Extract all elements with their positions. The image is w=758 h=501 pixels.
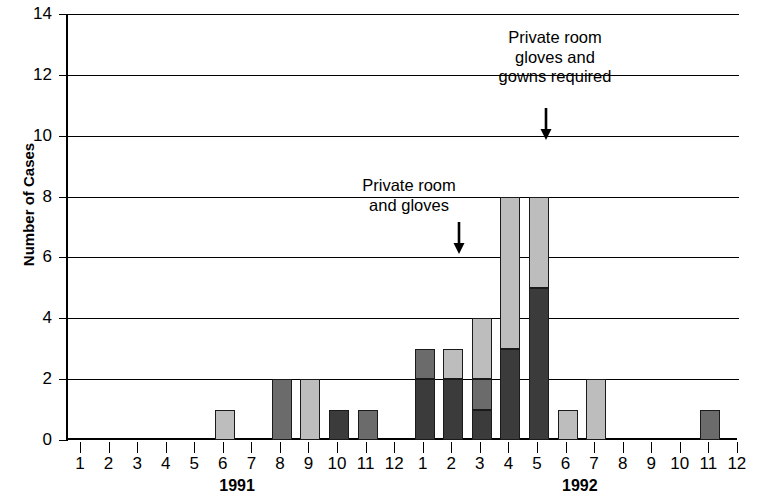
x-axis-tick (137, 442, 138, 453)
x-axis-tick-label: 10 (665, 455, 695, 472)
bar-chart: Number of Cases 02468101214 123456789101… (0, 0, 758, 501)
x-axis-tick (223, 442, 224, 453)
annotation-line: Private room (299, 176, 519, 196)
x-axis-tick-label: 4 (493, 455, 523, 472)
x-axis-tick (166, 442, 167, 453)
x-axis-tick (423, 442, 424, 453)
x-axis-tick (651, 442, 652, 453)
x-axis-tick-label: 6 (208, 455, 238, 472)
x-axis-tick-label: 8 (265, 455, 295, 472)
x-axis-tick (280, 442, 281, 453)
annotation-line: gloves and (445, 48, 665, 68)
x-axis-tick-label: 7 (579, 455, 609, 472)
x-axis-tick-label: 3 (122, 455, 152, 472)
x-axis-tick (80, 442, 81, 453)
annotation-line: Private room (445, 28, 665, 48)
annotation-line: gowns required (445, 67, 665, 87)
x-axis-tick (251, 442, 252, 453)
x-axis-tick (623, 442, 624, 453)
annotation-down-arrow-icon (451, 222, 467, 254)
x-axis-tick (537, 442, 538, 453)
x-axis-tick-label: 7 (236, 455, 266, 472)
x-axis-tick (737, 442, 738, 453)
x-axis-tick-label: 2 (94, 455, 124, 472)
x-axis-tick (708, 442, 709, 453)
x-axis-tick (508, 442, 509, 453)
x-axis-tick (194, 442, 195, 453)
x-axis-tick (451, 442, 452, 453)
x-axis-tick-label: 3 (465, 455, 495, 472)
x-axis-tick (566, 442, 567, 453)
annotation-down-arrow-icon (538, 108, 554, 140)
x-axis-tick-label: 9 (293, 455, 323, 472)
x-axis-tick (109, 442, 110, 453)
x-axis-tick (594, 442, 595, 453)
annotation-private-room-gloves-and-gowns-required: Private roomgloves andgowns required (445, 28, 665, 87)
x-axis-tick-label: 5 (179, 455, 209, 472)
x-axis-tick (337, 442, 338, 453)
x-axis-tick-label: 6 (551, 455, 581, 472)
x-axis-tick-label: 5 (522, 455, 552, 472)
x-axis-tick-label: 8 (608, 455, 638, 472)
x-axis-tick-label: 4 (151, 455, 181, 472)
x-axis-year-label: 1992 (535, 478, 625, 494)
x-axis-year-label: 1991 (192, 478, 282, 494)
x-axis-tick (308, 442, 309, 453)
x-axis-tick (394, 442, 395, 453)
x-axis-tick (680, 442, 681, 453)
annotation-line: and gloves (299, 196, 519, 216)
x-axis-tick-label: 2 (436, 455, 466, 472)
x-axis-tick-label: 12 (379, 455, 409, 472)
x-axis-tick-label: 1 (65, 455, 95, 472)
x-axis-tick-label: 11 (693, 455, 723, 472)
x-axis-tick-label: 1 (408, 455, 438, 472)
x-axis-tick (366, 442, 367, 453)
x-axis-tick-label: 9 (636, 455, 666, 472)
x-axis-tick-label: 12 (722, 455, 752, 472)
x-axis-tick-label: 10 (322, 455, 352, 472)
x-axis-tick (480, 442, 481, 453)
annotation-private-room-and-gloves: Private roomand gloves (299, 176, 519, 215)
x-axis-tick-label: 11 (351, 455, 381, 472)
